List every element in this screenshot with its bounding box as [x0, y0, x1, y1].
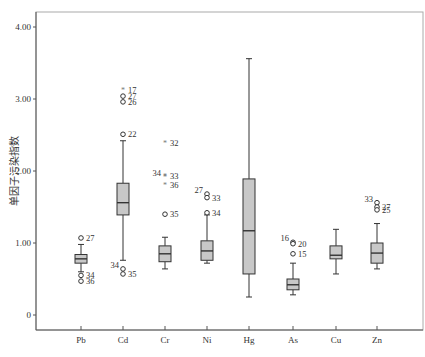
box-ni: 273334	[195, 185, 222, 263]
y-axis-title: 单因子污染指数	[8, 136, 20, 206]
outlier-circle-icon	[79, 273, 84, 278]
outlier-label: 16	[281, 233, 290, 243]
outlier-circle-icon	[205, 210, 210, 215]
outlier-label: 27	[86, 233, 95, 243]
x-tick-label: As	[288, 335, 298, 345]
outlier-label: 34	[212, 208, 221, 218]
outlier-label: 20	[298, 239, 307, 249]
outlier-circle-icon	[205, 195, 210, 200]
outlier-label: 33	[365, 194, 374, 204]
outlier-label: 32	[170, 138, 179, 148]
x-tick-label: Ni	[203, 335, 212, 345]
outlier-label: 36	[86, 276, 95, 286]
outlier-circle-icon	[121, 272, 126, 277]
outlier-label: 27	[195, 185, 204, 195]
outlier-circle-icon	[121, 94, 126, 99]
x-tick-label: Cu	[331, 335, 342, 345]
y-tick-label: 3.00	[15, 94, 31, 104]
x-tick-label: Hg	[244, 335, 255, 345]
box-cd: *172726223435	[111, 85, 137, 279]
boxes: 273436*172726223435*32*33*34*36352733341…	[75, 59, 391, 297]
outlier-label: 35	[170, 209, 179, 219]
outlier-label: 15	[298, 249, 307, 259]
box-cr: *32*33*34*3635	[153, 138, 179, 269]
outlier-label: 22	[128, 129, 137, 139]
outlier-circle-icon	[79, 279, 84, 284]
outlier-circle-icon	[79, 236, 84, 241]
outlier-label: 34	[111, 260, 120, 270]
box-pb: 273436	[75, 233, 95, 286]
y-tick-label: 0	[27, 310, 32, 320]
outlier-label: 25	[382, 205, 391, 215]
y-tick-label: 4.00	[15, 22, 31, 32]
outlier-circle-icon	[163, 212, 168, 217]
outlier-label: 34	[153, 168, 162, 178]
box-hg	[243, 59, 255, 297]
x-tick-label: Pb	[76, 335, 86, 345]
outlier-label: 36	[170, 180, 179, 190]
box-as: 162015	[281, 233, 307, 295]
outlier-label: 26	[128, 97, 137, 107]
box-zn: 332725	[365, 194, 391, 269]
outlier-star-icon: *	[163, 139, 167, 148]
y-tick-label: 1.00	[15, 238, 31, 248]
outlier-circle-icon	[375, 208, 380, 213]
outlier-star-icon: *	[121, 86, 125, 95]
boxplot-chart: 4.003.002.001.000 PbCdCrNiHgAsCuZn 27343…	[0, 0, 425, 357]
x-axis: PbCdCrNiHgAsCuZn	[36, 326, 423, 345]
outlier-circle-icon	[291, 252, 296, 257]
outlier-circle-icon	[121, 132, 126, 137]
x-tick-label: Cd	[118, 335, 129, 345]
outlier-label: 33	[212, 193, 221, 203]
outlier-circle-icon	[121, 267, 126, 272]
outlier-star-icon: *	[163, 181, 167, 190]
outlier-circle-icon	[121, 100, 126, 105]
x-tick-label: Zn	[372, 335, 382, 345]
x-tick-label: Cr	[161, 335, 170, 345]
outlier-label: 35	[128, 269, 137, 279]
outlier-circle-icon	[291, 241, 296, 246]
box-cu	[330, 229, 342, 274]
